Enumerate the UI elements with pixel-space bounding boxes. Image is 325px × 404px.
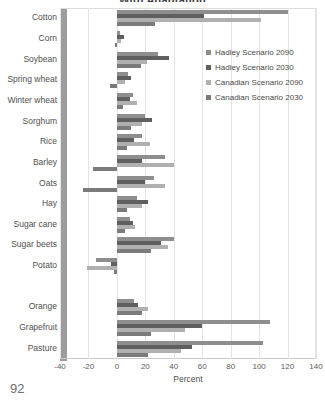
bar: [83, 188, 117, 192]
x-tick-label: -20: [83, 362, 95, 371]
figure: With Adaptation 92 CottonCornSoybeanSpri…: [0, 0, 325, 404]
bar: [117, 39, 121, 43]
bar: [117, 184, 165, 188]
bar: [87, 266, 117, 270]
legend-swatch-icon: [206, 50, 211, 55]
y-axis-category-label: Rice: [1, 137, 57, 146]
y-axis-category-label: Soybean: [1, 55, 57, 64]
legend-item: Hadley Scenario 2090: [206, 47, 303, 57]
y-axis-category-label: Corn: [1, 34, 57, 43]
y-axis-category-label: Orange: [1, 302, 57, 311]
legend-swatch-icon: [206, 80, 211, 85]
y-axis-category-label: Spring wheat: [1, 75, 57, 84]
page-number: 92: [10, 381, 24, 396]
bar: [117, 229, 126, 233]
x-tick-label: 60: [198, 362, 207, 371]
x-tick-label: 100: [252, 362, 265, 371]
y-axis-category-label: Grapefruit: [1, 323, 57, 332]
bar: [114, 270, 117, 274]
y-axis-category-label: Hay: [1, 199, 57, 208]
gridline--20: [88, 8, 89, 359]
gridline-60: [202, 8, 203, 359]
x-tick-label: 80: [226, 362, 235, 371]
legend-label: Canadian Scenario 2090: [215, 78, 303, 87]
x-tick-label: -40: [54, 362, 66, 371]
x-tick-label: 40: [169, 362, 178, 371]
bar: [93, 167, 117, 171]
bar: [117, 311, 143, 315]
legend: Hadley Scenario 2090Hadley Scenario 2030…: [206, 47, 303, 107]
legend-item: Canadian Scenario 2090: [206, 77, 303, 87]
bar: [115, 43, 116, 47]
bar: [117, 80, 126, 84]
gridline-140: [316, 8, 317, 359]
x-tick-label: 120: [281, 362, 294, 371]
chart-title: With Adaptation: [0, 0, 325, 2]
gridline-40: [174, 8, 175, 359]
y-axis-category-label: Sorghum: [1, 117, 57, 126]
x-tick-label: 20: [141, 362, 150, 371]
legend-item: Canadian Scenario 2030: [206, 92, 303, 102]
bar: [117, 163, 174, 167]
bar: [117, 126, 131, 130]
x-tick-label: 140: [309, 362, 322, 371]
y-axis-category-label: Barley: [1, 158, 57, 167]
y-axis-category-label: Oats: [1, 179, 57, 188]
x-axis-tick-labels: -40-20020406080100120140: [0, 362, 325, 374]
bar: [110, 84, 117, 88]
legend-swatch-icon: [206, 65, 211, 70]
bar: [117, 208, 127, 212]
legend-item: Hadley Scenario 2030: [206, 62, 303, 72]
y-axis-category-label: Sugar beets: [1, 240, 57, 249]
legend-label: Hadley Scenario 2090: [215, 48, 294, 57]
bar: [117, 146, 127, 150]
y-axis-category-label: Cotton: [1, 13, 57, 22]
bar: [117, 332, 151, 336]
bar: [117, 64, 141, 68]
legend-swatch-icon: [206, 95, 211, 100]
y-axis-labels: CottonCornSoybeanSpring wheatWinter whea…: [0, 8, 57, 359]
x-tick-label: 0: [115, 362, 119, 371]
y-axis-category-label: Potato: [1, 261, 57, 270]
y-axis-category-label: Sugar cane: [1, 220, 57, 229]
bar: [117, 22, 155, 26]
bar: [117, 105, 123, 109]
gridline--40: [60, 8, 61, 359]
y-axis-category-label: Winter wheat: [1, 96, 57, 105]
legend-label: Canadian Scenario 2030: [215, 93, 303, 102]
bar: [117, 249, 151, 253]
legend-label: Hadley Scenario 2030: [215, 63, 294, 72]
x-axis-title: Percent: [60, 374, 316, 384]
y-axis-category-label: Pasture: [1, 344, 57, 353]
bar: [117, 353, 148, 357]
